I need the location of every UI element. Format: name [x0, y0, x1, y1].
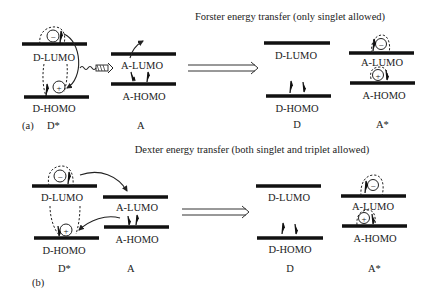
- species-label-d: D: [286, 263, 294, 274]
- spin-down-icon: [386, 70, 389, 80]
- hole-symbol: +: [56, 83, 61, 93]
- panel-b: Dexter energy transfer (both singlet and…: [32, 144, 407, 289]
- species-label-d-star: D*: [47, 120, 60, 131]
- panel-a-donor-ground: D-LUMO D-HOMO D: [264, 43, 331, 130]
- electron-transfer-arrow: [80, 172, 127, 191]
- species-label-d-star: D*: [58, 263, 71, 274]
- spin-down-icon: [303, 82, 306, 92]
- electron-symbol: −: [50, 32, 55, 42]
- a-lumo-label: A-LUMO: [116, 202, 158, 213]
- dashed-path: [43, 64, 46, 96]
- spin-up-icon: [282, 223, 285, 234]
- dipole-coupling-arrow: [80, 63, 113, 73]
- panel-a-donor-excited: D-LUMO D-HOMO (a) D* − +: [22, 27, 89, 132]
- a-homo-label: A-HOMO: [115, 234, 159, 245]
- species-label-a-star: A*: [368, 263, 381, 274]
- d-homo-label: D-HOMO: [42, 245, 86, 256]
- panel-a: Forster energy transfer (only singlet al…: [22, 11, 415, 132]
- spin-down-icon: [295, 224, 298, 234]
- spin-up-icon: [373, 39, 376, 51]
- d-lumo-label: D-LUMO: [275, 50, 317, 61]
- a-homo-label: A-HOMO: [353, 233, 397, 244]
- spin-down-icon: [372, 214, 375, 224]
- spin-up-icon: [136, 215, 139, 225]
- hole-symbol: +: [375, 71, 380, 81]
- a-homo-label: A-HOMO: [362, 90, 406, 101]
- species-label-d: D: [293, 119, 301, 130]
- species-label-a: A: [137, 120, 145, 131]
- a-lumo-label: A-LUMO: [352, 201, 394, 212]
- d-lumo-label: D-LUMO: [41, 192, 83, 203]
- spin-up-icon: [68, 172, 71, 184]
- spin-up-icon: [290, 81, 293, 93]
- spin-up-icon: [147, 72, 150, 82]
- hole-symbol: +: [63, 226, 68, 236]
- arrowhead-icon: [108, 63, 113, 73]
- a-homo-label: A-HOMO: [122, 91, 166, 102]
- panel-b-tag: (b): [32, 277, 45, 289]
- wavy-line-icon: [80, 67, 96, 70]
- transition-double-arrow: [188, 62, 258, 74]
- spin-up-icon: [365, 181, 368, 193]
- a-lumo-label: A-LUMO: [361, 57, 403, 68]
- spin-up-icon: [46, 84, 49, 96]
- electron-symbol: −: [378, 40, 383, 50]
- hole-symbol: +: [361, 214, 366, 224]
- d-homo-label: D-HOMO: [268, 244, 312, 255]
- panel-b-title: Dexter energy transfer (both singlet and…: [135, 144, 370, 156]
- d-lumo-label: D-LUMO: [268, 192, 310, 203]
- panel-a-title: Forster energy transfer (only singlet al…: [195, 11, 386, 23]
- energy-transfer-diagram: Forster energy transfer (only singlet al…: [0, 0, 434, 297]
- panel-b-donor-excited: D-LUMO D-HOMO D* (b) − +: [32, 166, 99, 289]
- spin-up-icon: [60, 31, 63, 43]
- electron-symbol: −: [370, 181, 375, 191]
- panel-a-acceptor: A-LUMO A-HOMO A: [111, 41, 176, 131]
- electron-symbol: −: [57, 172, 62, 182]
- d-homo-label: D-HOMO: [275, 103, 319, 114]
- arrowhead-icon: [251, 62, 258, 74]
- panel-b-acceptor: A-LUMO A-HOMO A: [103, 197, 169, 274]
- spin-down-icon: [131, 72, 135, 81]
- panel-a-acceptor-excited: A-LUMO A-HOMO A* − +: [349, 35, 415, 130]
- panel-b-donor-ground: D-LUMO D-HOMO D: [256, 186, 323, 274]
- d-lumo-label: D-LUMO: [33, 52, 75, 63]
- species-label-a-star: A*: [376, 119, 389, 130]
- panel-a-tag: (a): [22, 120, 34, 132]
- panel-b-acceptor-excited: A-LUMO A-HOMO A* − +: [341, 175, 407, 274]
- a-lumo-label: A-LUMO: [121, 60, 163, 71]
- spin-down-icon: [128, 216, 131, 225]
- arrowhead-icon: [242, 206, 249, 218]
- species-label-a: A: [127, 263, 135, 274]
- transition-double-arrow: [182, 206, 249, 218]
- d-homo-label: D-HOMO: [32, 103, 76, 114]
